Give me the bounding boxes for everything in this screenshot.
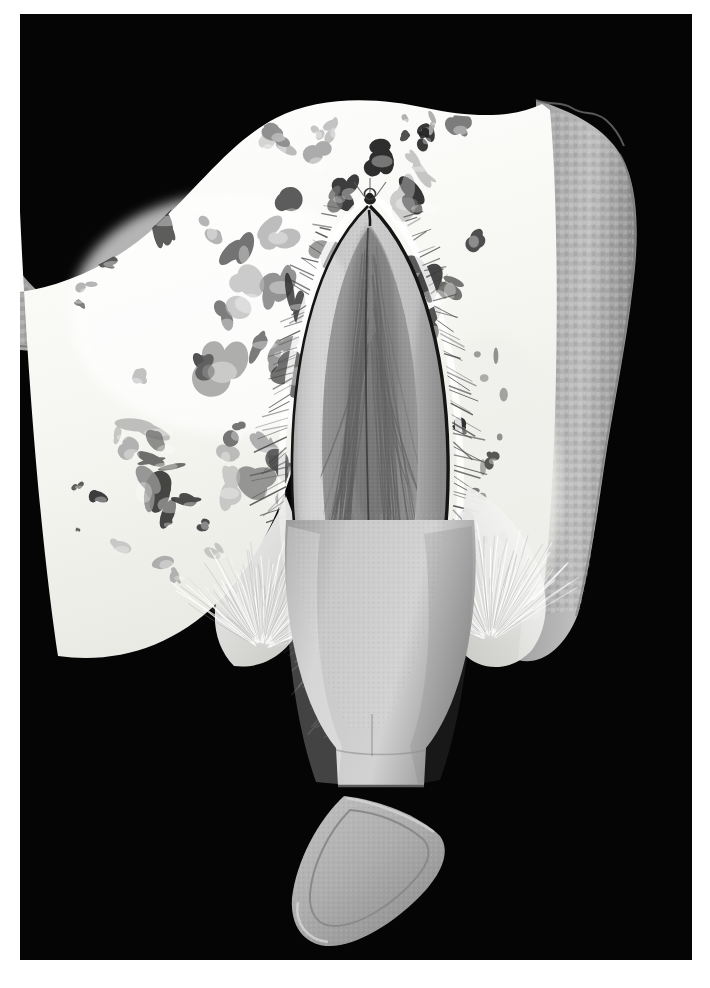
occlusal-gap bbox=[338, 788, 424, 794]
illustration-plate: Sagittal section of a tooth in its alveo… bbox=[20, 14, 692, 960]
illustration-figure: Sagittal section of a tooth in its alveo… bbox=[0, 0, 710, 988]
